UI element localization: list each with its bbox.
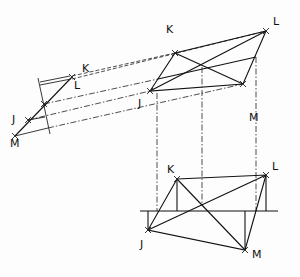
base-view: K L J M: [139, 160, 279, 261]
edge-view: K L J M: [10, 62, 90, 150]
diagonal-jl-base: [148, 175, 266, 230]
label-j-oblique: J: [137, 97, 141, 110]
label-l-base: L: [272, 160, 279, 173]
label-j-left: J: [11, 113, 15, 126]
label-k-base: K: [167, 163, 175, 176]
label-m-left: M: [10, 137, 20, 150]
edge-line-jm-kl: [15, 77, 72, 136]
edge-segment-m: [15, 128, 48, 136]
label-k-oblique: K: [166, 23, 174, 36]
projector-lines-left: [28, 31, 266, 128]
label-l-left: L: [74, 79, 81, 92]
diagram-canvas: K L J M K L J M K L: [0, 0, 300, 277]
label-k-left: K: [82, 62, 90, 75]
label-m-oblique: M: [249, 111, 259, 124]
projection-diagram: K L J M K L J M K L: [0, 0, 300, 277]
diagonal-jl: [150, 31, 266, 91]
quad-jklm-base: [148, 175, 266, 250]
diagonal-km: [175, 53, 243, 84]
label-m-base: M: [252, 248, 262, 261]
label-j-base: J: [139, 238, 143, 251]
inner-line: [158, 57, 256, 79]
label-l-oblique: L: [273, 15, 280, 28]
edge-segment-1: [40, 76, 70, 82]
edge-segment-2: [40, 79, 71, 85]
oblique-view: K L J M: [137, 15, 280, 124]
